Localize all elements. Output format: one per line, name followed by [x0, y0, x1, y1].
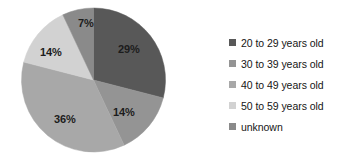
legend-item: 40 to 49 years old [229, 74, 347, 95]
pie-slice-value-label: 29% [118, 43, 140, 55]
legend-item-label: 30 to 39 years old [241, 58, 324, 70]
pie-slice-value-label: 14% [113, 106, 135, 118]
legend-swatch-icon [229, 102, 236, 109]
legend-swatch-icon [229, 123, 236, 130]
pie-slices-group [21, 8, 165, 152]
legend-item-label: unknown [241, 121, 283, 133]
pie-chart-figure: 29%14%36%14%7% 20 to 29 years old 30 to … [0, 0, 347, 165]
pie-slice-value-label: 14% [40, 46, 62, 58]
legend-swatch-icon [229, 81, 236, 88]
chart-legend: 20 to 29 years old 30 to 39 years old 40… [229, 32, 347, 137]
legend-item: 20 to 29 years old [229, 32, 347, 53]
legend-item: unknown [229, 116, 347, 137]
pie-chart-svg [0, 0, 200, 165]
legend-item-label: 20 to 29 years old [241, 37, 324, 49]
legend-item-label: 40 to 49 years old [241, 79, 324, 91]
legend-swatch-icon [229, 60, 236, 67]
pie-slice-value-label: 7% [78, 17, 94, 29]
legend-swatch-icon [229, 39, 236, 46]
pie-slice-value-label: 36% [54, 113, 76, 125]
pie-chart-plot-area: 29%14%36%14%7% [0, 0, 200, 165]
legend-item: 50 to 59 years old [229, 95, 347, 116]
legend-item-label: 50 to 59 years old [241, 100, 324, 112]
legend-item: 30 to 39 years old [229, 53, 347, 74]
